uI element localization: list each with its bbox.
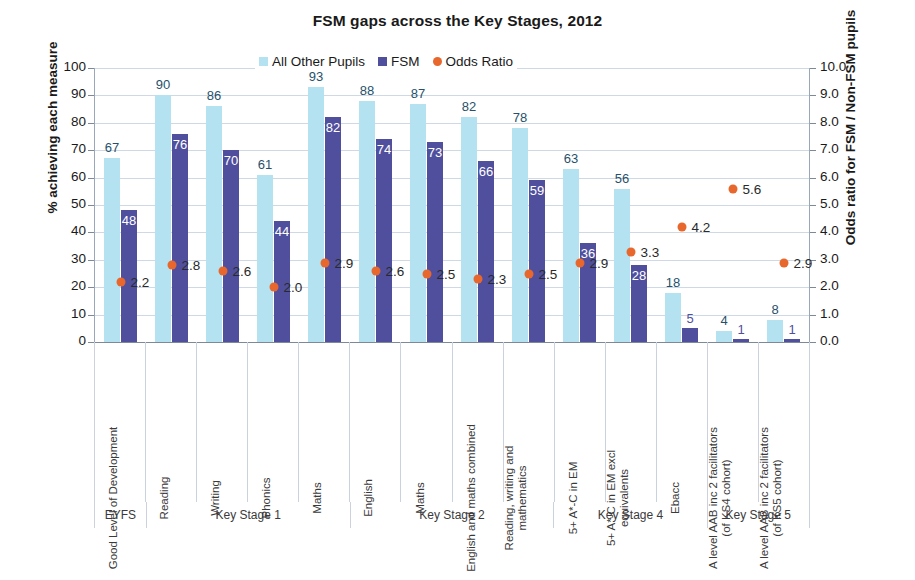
bar-fsm[interactable]: 28: [631, 265, 647, 342]
bar-fsm[interactable]: 82: [325, 117, 341, 342]
bar-value-label: 48: [122, 213, 136, 228]
odds-ratio-marker[interactable]: [116, 277, 125, 286]
bar-all-other-pupils[interactable]: 8: [767, 320, 783, 342]
bar-group: 93822.9: [299, 68, 350, 342]
category-cell: Ebacc: [657, 342, 708, 502]
bar-all-other-pupils[interactable]: 56: [614, 189, 630, 342]
odds-ratio-marker[interactable]: [626, 247, 635, 256]
odds-ratio-value-label: 2.9: [794, 255, 813, 270]
bar-value-label: 56: [615, 171, 629, 186]
bar-all-other-pupils[interactable]: 67: [104, 158, 120, 342]
bar-groups: 67482.290762.886702.661442.093822.988742…: [95, 68, 809, 342]
bar-value-label: 82: [462, 99, 476, 114]
odds-ratio-marker[interactable]: [167, 261, 176, 270]
bar-group: 78592.5: [503, 68, 554, 342]
bar-group: 87732.5: [401, 68, 452, 342]
y-axis-left-tick-mark: [88, 68, 94, 69]
bar-all-other-pupils[interactable]: 87: [410, 104, 426, 342]
y-axis-right-tick-label: 4.0: [820, 223, 839, 238]
bar-value-label: 59: [530, 183, 544, 198]
y-axis-left-tick-label: 0: [78, 333, 86, 348]
bar-value-label: 1: [737, 322, 744, 337]
bar-group: 415.6: [707, 68, 758, 342]
bar-fsm[interactable]: 66: [478, 161, 494, 342]
odds-ratio-marker[interactable]: [269, 283, 278, 292]
bar-pair: 185: [656, 68, 707, 342]
bar-value-label: 74: [377, 142, 391, 157]
chart-title: FSM gaps across the Key Stages, 2012: [0, 12, 915, 30]
category-label: Good Level of Development: [107, 423, 120, 573]
key-stage-cell: Key Stage 4: [554, 502, 707, 528]
bar-pair: 8266: [452, 68, 503, 342]
bar-all-other-pupils[interactable]: 93: [308, 87, 324, 342]
y-axis-right-title: Odds ratio for FSM / Non-FSM pupils: [843, 0, 858, 278]
bar-value-label: 93: [309, 69, 323, 84]
odds-ratio-marker[interactable]: [422, 269, 431, 278]
key-stage-axis: EYFSKey Stage 1Key Stage 2Key Stage 4Key…: [94, 502, 810, 528]
y-axis-right-tick-mark: [810, 68, 816, 69]
category-cell: Maths: [299, 342, 350, 502]
bar-all-other-pupils[interactable]: 61: [257, 175, 273, 342]
key-stage-cell: Key Stage 5: [708, 502, 810, 528]
category-cell: A level AAB inc 2 facilitators (of KS5 c…: [759, 342, 810, 502]
legend-swatch-icon: [378, 57, 387, 66]
bar-all-other-pupils[interactable]: 82: [461, 117, 477, 342]
bar-value-label: 66: [479, 164, 493, 179]
bar-value-label: 73: [428, 145, 442, 160]
odds-ratio-marker[interactable]: [371, 266, 380, 275]
bar-all-other-pupils[interactable]: 86: [206, 106, 222, 342]
odds-ratio-marker[interactable]: [677, 222, 686, 231]
legend-label: FSM: [391, 54, 420, 69]
y-axis-left-tick-mark: [88, 178, 94, 179]
bar-group: 56283.3: [605, 68, 656, 342]
plot-area: 00.0101.0202.0303.0404.0505.0606.0707.08…: [94, 68, 810, 342]
y-axis-left-tick-label: 40: [71, 223, 86, 238]
bar-value-label: 44: [275, 224, 289, 239]
bar-fsm[interactable]: 59: [529, 180, 545, 342]
bar-all-other-pupils[interactable]: 90: [155, 95, 171, 342]
y-axis-left-tick-label: 80: [71, 114, 86, 129]
bar-all-other-pupils[interactable]: 18: [665, 293, 681, 342]
category-label: A level AAB inc 2 facilitators (of KS4 c…: [707, 423, 733, 573]
y-axis-right-tick-label: 1.0: [820, 306, 839, 321]
bar-fsm[interactable]: 74: [376, 139, 392, 342]
bar-value-label: 88: [360, 83, 374, 98]
bar-all-other-pupils[interactable]: 4: [716, 331, 732, 342]
odds-ratio-marker[interactable]: [218, 266, 227, 275]
y-axis-left-tick-label: 30: [71, 251, 86, 266]
bar-value-label: 70: [224, 153, 238, 168]
odds-ratio-marker[interactable]: [575, 258, 584, 267]
bar-group: 61442.0: [248, 68, 299, 342]
odds-ratio-marker[interactable]: [524, 269, 533, 278]
bar-group: 90762.8: [146, 68, 197, 342]
y-axis-right-tick-label: 0.0: [820, 333, 839, 348]
bar-pair: 8773: [401, 68, 452, 342]
odds-ratio-marker[interactable]: [473, 274, 482, 283]
bar-fsm[interactable]: 73: [427, 142, 443, 342]
bar-value-label: 82: [326, 120, 340, 135]
y-axis-left-tick-mark: [88, 287, 94, 288]
odds-ratio-marker[interactable]: [779, 258, 788, 267]
key-stage-label: EYFS: [105, 508, 136, 522]
bar-all-other-pupils[interactable]: 78: [512, 128, 528, 342]
bar-all-other-pupils[interactable]: 88: [359, 101, 375, 342]
y-axis-left-tick-label: 70: [71, 141, 86, 156]
bar-fsm[interactable]: 5: [682, 328, 698, 342]
y-axis-left-tick-mark: [88, 95, 94, 96]
bar-fsm[interactable]: 76: [172, 134, 188, 342]
bar-pair: 6336: [554, 68, 605, 342]
bar-fsm[interactable]: 70: [223, 150, 239, 342]
category-label: 5+ A*-C in EM excl equivalents: [605, 423, 631, 573]
bar-all-other-pupils[interactable]: 63: [563, 169, 579, 342]
y-axis-right-tick-mark: [810, 232, 816, 233]
bar-value-label: 78: [513, 110, 527, 125]
bar-value-label: 90: [156, 77, 170, 92]
y-axis-right-tick-label: 9.0: [820, 86, 839, 101]
bar-group: 812.9: [758, 68, 809, 342]
odds-ratio-marker[interactable]: [320, 258, 329, 267]
category-label: A level AAB inc 2 facilitators (of KS5 c…: [758, 423, 784, 573]
odds-ratio-marker[interactable]: [728, 184, 737, 193]
y-axis-right-tick-mark: [810, 205, 816, 206]
y-axis-right-tick-label: 7.0: [820, 141, 839, 156]
category-cell: Reading: [146, 342, 197, 502]
